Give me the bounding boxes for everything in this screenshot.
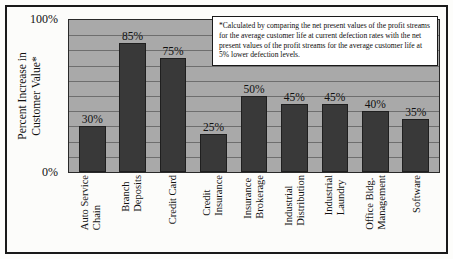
bar-value-label: 85% [112,30,152,42]
x-axis-label-3: Credit Card [167,175,179,224]
footnote-annotation: *Calculated by comparing the net present… [212,16,438,66]
bar [200,134,227,172]
y-axis-ticks: 100% 0% [10,0,58,200]
x-axis-label-2: BranchDeposits [120,175,144,212]
x-axis-label-6: IndustrialDistribution [283,175,307,226]
x-label-slot: BranchDeposits [112,175,153,253]
x-axis-label-line1: Industrial [323,175,334,215]
x-axis-label-line2: Brokerage [254,175,266,219]
x-axis-label-line1: Industrial [283,186,294,226]
x-axis-label-8: Office Bldg.Management [364,175,388,230]
x-axis-label-1: Auto ServiceChain [79,175,103,230]
x-label-slot: IndustrialDistribution [274,175,315,253]
bar-value-label: 50% [234,83,274,95]
y-axis-tick-100: 100% [22,13,58,25]
x-axis-label-line2: Insurance [213,175,225,216]
bar-value-label: 75% [153,45,193,57]
x-axis-label-line1: Office Bldg. [364,178,375,230]
x-axis-label-5: InsuranceBrokerage [242,175,266,219]
x-axis-label-line2: Distribution [295,175,307,226]
bar-value-label: 40% [355,98,395,110]
bar-value-label: 35% [396,106,436,118]
bar [281,104,308,172]
x-label-slot: Credit Card [152,175,193,253]
bar-slot: 85% [112,20,152,172]
x-axis-label-7: IndustrialLaundry [323,175,347,215]
bar-slot: 30% [72,20,112,172]
x-label-slot: Software [396,175,437,253]
x-axis-label-line2: Deposits [132,175,144,212]
x-axis-label-line1: Credit [201,190,212,216]
bar [322,104,349,172]
bar [362,111,389,172]
x-label-slot: Office Bldg.Management [356,175,397,253]
chart-figure: Percent Increase in Customer Value* 100%… [0,0,453,259]
x-axis-label-line1: Auto Service [79,175,90,230]
x-axis-category-labels: Auto ServiceChainBranchDepositsCredit Ca… [68,175,440,253]
x-axis-label-line1: Credit Card [167,175,178,224]
x-label-slot: InsuranceBrokerage [234,175,275,253]
bar-value-label: 45% [274,91,314,103]
x-axis-label-line1: Branch [120,181,131,211]
x-axis-label-line2: Laundry [335,175,347,215]
bar [119,43,146,172]
bar [160,58,187,172]
x-axis-label-line2: Management [376,175,388,230]
bar-value-label: 45% [315,91,355,103]
x-axis-label-line2: Chain [91,175,103,230]
x-axis-label-line1: Insurance [242,178,253,219]
x-label-slot: IndustrialLaundry [315,175,356,253]
x-axis-label-4: CreditInsurance [201,175,225,216]
bar [79,126,106,172]
bar [402,119,429,172]
bar-slot: 75% [153,20,193,172]
x-axis-label-9: Software [411,175,423,213]
y-axis-tick-0: 0% [22,166,58,178]
x-label-slot: Auto ServiceChain [71,175,112,253]
x-axis-label-line1: Software [411,175,422,213]
x-label-slot: CreditInsurance [193,175,234,253]
bar [241,96,268,172]
bar-value-label: 25% [193,121,233,133]
bar-value-label: 30% [72,113,112,125]
